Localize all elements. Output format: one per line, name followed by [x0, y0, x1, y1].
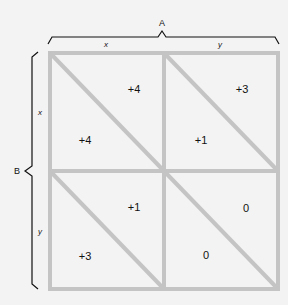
player-b-strategy-y: y	[38, 227, 42, 236]
cell-xx-payoff-a: +4	[128, 83, 141, 95]
brace-b	[25, 52, 38, 289]
player-a-strategy-y: y	[218, 40, 222, 49]
cell-yx-payoff-a: +1	[128, 201, 141, 213]
cell-yy-payoff-b: 0	[203, 249, 209, 261]
cell-xy-payoff-b: +1	[195, 134, 208, 146]
cell-xy-payoff-a: +3	[236, 83, 249, 95]
payoff-matrix-graphic	[0, 0, 288, 305]
player-a-label: A	[159, 18, 165, 28]
cell-yy-payoff-a: 0	[243, 202, 249, 214]
cell-yx-payoff-b: +3	[79, 250, 92, 262]
brace-a	[48, 31, 279, 44]
player-a-strategy-x: x	[104, 40, 108, 49]
player-b-strategy-x: x	[38, 108, 42, 117]
player-b-label: B	[14, 166, 20, 176]
cell-xx-payoff-b: +4	[79, 134, 92, 146]
